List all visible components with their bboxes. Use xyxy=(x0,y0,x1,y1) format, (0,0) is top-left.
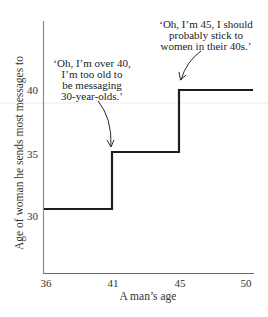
y-tick-30: 30 xyxy=(27,210,39,222)
annotation-2-line-3: women in their 40s.’ xyxy=(160,40,251,52)
annotation-2-arrow-icon xyxy=(181,51,201,80)
y-axis-label: Age of woman he sends most messages to xyxy=(13,56,26,250)
x-tick-50: 50 xyxy=(241,277,253,289)
x-axis-label: A man’s age xyxy=(120,290,177,303)
y-tick-35: 35 xyxy=(27,148,39,160)
annotation-1-line-4: 30-year-olds.’ xyxy=(61,90,123,102)
x-tick-36: 36 xyxy=(41,277,53,289)
x-tick-45: 45 xyxy=(175,277,187,289)
annotation-over-40: ‘Oh, I’m over 40, I’m too old to be mess… xyxy=(53,57,131,147)
annotation-1-arrow-icon xyxy=(98,101,111,146)
annotation-1-arrowhead-icon xyxy=(107,140,114,147)
y-tick-40: 40 xyxy=(27,84,39,96)
x-tick-41: 41 xyxy=(108,277,119,289)
step-series-line xyxy=(44,90,253,209)
step-chart: 40 35 30 36 41 45 50 A man’s age Age of … xyxy=(0,0,268,317)
annotation-age-45: ‘Oh, I’m 45, I should probably stick to … xyxy=(159,18,253,80)
